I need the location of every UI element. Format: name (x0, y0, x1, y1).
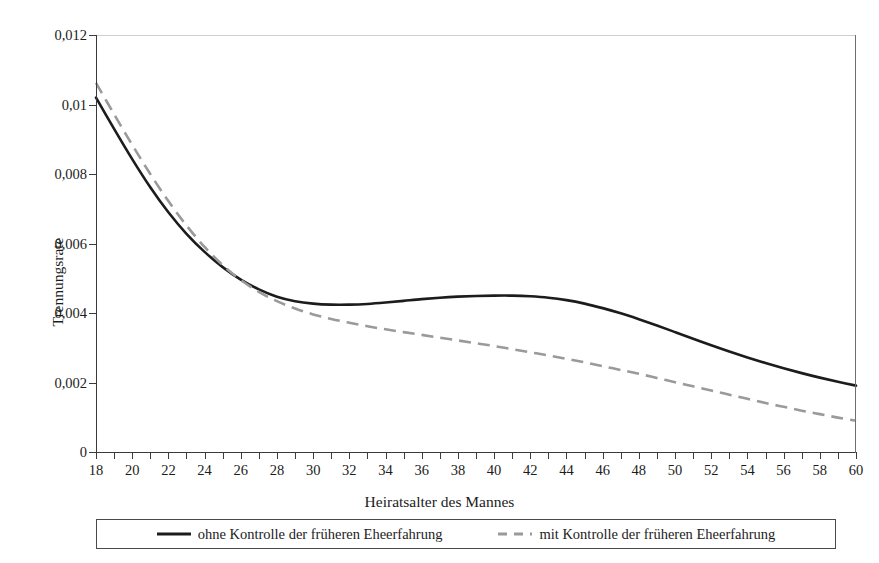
y-axis-tick (89, 313, 96, 314)
x-axis-tick (458, 452, 459, 459)
x-axis-tick (331, 452, 332, 459)
x-axis-tick (186, 452, 187, 459)
y-axis-tick-label: 0,01 (62, 97, 87, 112)
cropped-title-remnant (150, 0, 730, 2)
y-axis-tick-label: 0,008 (54, 167, 87, 182)
x-axis-tick (729, 452, 730, 459)
x-axis-tick-label: 30 (306, 463, 321, 478)
x-axis-tick-label: 44 (559, 463, 574, 478)
plot-right-border (855, 35, 856, 453)
x-axis-title: Heiratsalter des Mannes (0, 493, 879, 511)
x-axis-tick (766, 452, 767, 459)
figure-container: Trennungsrate 00,0020,0040,0060,0080,010… (0, 0, 879, 563)
x-axis-tick-label: 54 (740, 463, 755, 478)
y-axis-tick (89, 105, 96, 106)
x-axis-tick (277, 452, 278, 459)
x-axis-tick (621, 452, 622, 459)
legend-item-ohne-kontrolle: ohne Kontrolle der früheren Eheerfahrung (157, 527, 443, 542)
x-axis-tick (530, 452, 531, 459)
x-axis-tick-label: 36 (414, 463, 429, 478)
x-axis-tick (114, 452, 115, 459)
x-axis-tick (367, 452, 368, 459)
x-axis-tick (349, 452, 350, 459)
x-axis-tick (476, 452, 477, 459)
x-axis-tick (494, 452, 495, 459)
x-axis-tick-label: 56 (776, 463, 791, 478)
x-axis-tick (747, 452, 748, 459)
x-axis-tick (603, 452, 604, 459)
x-axis-tick-label: 42 (523, 463, 538, 478)
x-axis-tick (241, 452, 242, 459)
x-axis-tick (404, 452, 405, 459)
x-axis-tick (132, 452, 133, 459)
y-axis-tick-label: 0,012 (54, 28, 87, 43)
x-axis-tick (675, 452, 676, 459)
x-axis-tick (386, 452, 387, 459)
legend-label: ohne Kontrolle der früheren Eheerfahrung (198, 527, 443, 542)
legend-swatch-solid-icon (157, 529, 191, 539)
x-axis-tick-label: 26 (234, 463, 249, 478)
y-axis-tick (89, 452, 96, 453)
x-axis-tick-label: 22 (161, 463, 176, 478)
y-axis-tick (89, 174, 96, 175)
legend-swatch-dashed-icon (498, 529, 532, 539)
x-axis-tick (512, 452, 513, 459)
x-axis-tick-label: 58 (813, 463, 828, 478)
x-axis-tick (784, 452, 785, 459)
legend-label: mit Kontrolle der früheren Eheerfahrung (539, 527, 775, 542)
x-axis-tick (802, 452, 803, 459)
x-axis-tick-label: 24 (197, 463, 212, 478)
data-curves (96, 35, 856, 453)
x-axis-tick (440, 452, 441, 459)
x-axis-tick-label: 52 (704, 463, 719, 478)
x-axis-tick (639, 452, 640, 459)
y-axis-line (96, 35, 97, 453)
legend-item-mit-kontrolle: mit Kontrolle der früheren Eheerfahrung (498, 527, 775, 542)
x-axis-tick (838, 452, 839, 459)
top-gridline (96, 35, 856, 36)
x-axis-tick (223, 452, 224, 459)
y-axis-tick-label: 0,002 (54, 375, 87, 390)
y-axis-tick (89, 244, 96, 245)
series-line-mit-kontrolle (96, 83, 856, 421)
x-axis-tick-label: 60 (849, 463, 864, 478)
x-axis-tick (150, 452, 151, 459)
x-axis-tick-label: 34 (378, 463, 393, 478)
plot-area: 00,0020,0040,0060,0080,010,012 182022242… (96, 35, 855, 452)
x-axis-tick (295, 452, 296, 459)
x-axis-tick (693, 452, 694, 459)
x-axis-tick (657, 452, 658, 459)
x-axis-tick-label: 48 (632, 463, 647, 478)
x-axis-tick-label: 18 (89, 463, 104, 478)
series-line-ohne-kontrolle (96, 98, 856, 386)
x-axis-tick (422, 452, 423, 459)
x-axis-tick-label: 38 (451, 463, 466, 478)
y-axis-tick-label: 0,006 (54, 236, 87, 251)
x-axis-tick (585, 452, 586, 459)
x-axis-tick-label: 40 (487, 463, 502, 478)
x-axis-tick-label: 50 (668, 463, 683, 478)
x-axis-tick (168, 452, 169, 459)
x-axis-tick (711, 452, 712, 459)
legend: ohne Kontrolle der früheren Eheerfahrung… (96, 519, 836, 549)
x-axis-tick-label: 20 (125, 463, 140, 478)
y-axis-tick-label: 0 (80, 445, 87, 460)
x-axis-tick (205, 452, 206, 459)
x-axis-tick (259, 452, 260, 459)
y-axis-tick (89, 35, 96, 36)
x-axis-tick (820, 452, 821, 459)
x-axis-tick-label: 28 (270, 463, 285, 478)
x-axis-tick (96, 452, 97, 459)
x-axis-tick (856, 452, 857, 459)
y-axis-tick-label: 0,004 (54, 306, 87, 321)
x-axis-tick-label: 46 (595, 463, 610, 478)
x-axis-tick (548, 452, 549, 459)
x-axis-tick (566, 452, 567, 459)
x-axis-tick-label: 32 (342, 463, 357, 478)
x-axis-tick (313, 452, 314, 459)
y-axis-tick (89, 383, 96, 384)
